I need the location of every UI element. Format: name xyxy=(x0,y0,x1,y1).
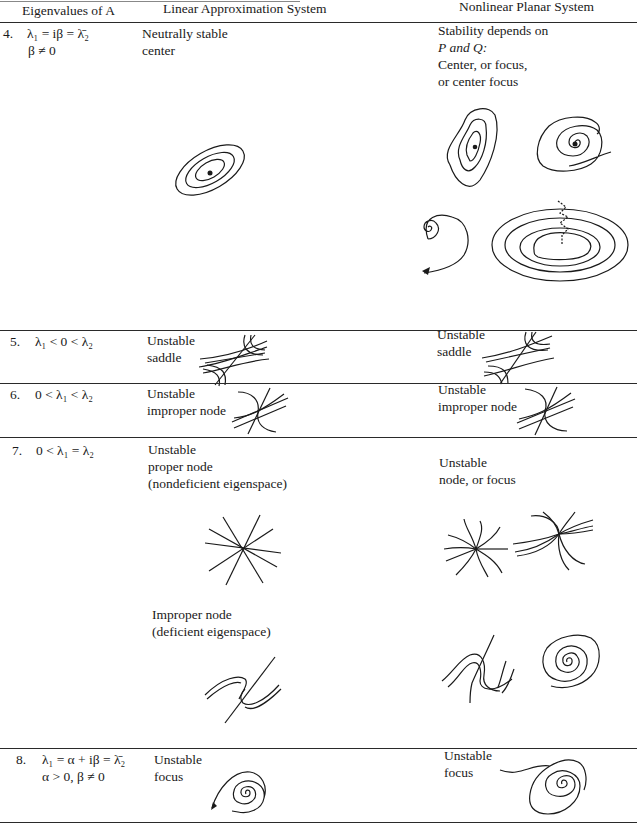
linear-type-2: improper node xyxy=(147,402,226,419)
linear-type: Unstable xyxy=(147,385,195,402)
linear-type: Unstable xyxy=(147,332,195,349)
focus-spiral-icon xyxy=(525,112,625,182)
nonlinear-type-2: node, or focus xyxy=(439,471,516,488)
bottom-rule xyxy=(0,822,637,823)
nonlinear-type-2: saddle xyxy=(437,343,472,360)
row-number: 7. xyxy=(12,442,22,459)
spiral-outward-icon xyxy=(420,205,475,275)
header-nonlinear: Nonlinear Planar System xyxy=(459,0,594,15)
improper-node-deficient-icon xyxy=(203,655,283,725)
linear-type-2: focus xyxy=(154,768,183,785)
linear-type-b: Improper node xyxy=(152,606,232,623)
linear-type-b-2: (deficient eigenspace) xyxy=(152,623,271,640)
eigen-condition: 0 < λ₁ = λ₂ xyxy=(36,442,94,459)
header-linear: Linear Approximation System xyxy=(163,0,326,17)
linear-type-3: (nondeficient eigenspace) xyxy=(148,475,287,492)
row-number: 5. xyxy=(10,333,20,350)
linear-type-2: proper node xyxy=(148,458,213,475)
eigen-condition: 0 < λ₁ < λ₂ xyxy=(35,386,93,403)
unstable-focus-spiral-icon xyxy=(500,752,590,820)
nonlinear-type: Unstable xyxy=(439,454,487,471)
saddle-icon xyxy=(478,330,558,385)
nonlinear-type-4: or center focus xyxy=(438,73,518,90)
nonlinear-type: Stability depends on xyxy=(438,22,548,39)
row-rule xyxy=(0,748,637,749)
unstable-focus-spiral-icon xyxy=(210,768,278,820)
row-number: 6. xyxy=(10,386,20,403)
curved-improper-node-icon xyxy=(513,508,595,578)
improper-node-icon xyxy=(515,385,579,437)
improper-node-icon xyxy=(230,386,290,436)
eigen-condition: λ₁ < 0 < λ₂ xyxy=(35,333,93,350)
eigen-condition-2: β ≠ 0 xyxy=(28,42,56,59)
linear-type: Neutrally stable xyxy=(142,25,228,42)
linear-type: Unstable xyxy=(148,441,196,458)
row-number: 4. xyxy=(3,25,13,42)
saddle-icon xyxy=(195,333,275,388)
eigen-condition: λ₁ = iβ = λ̄₂ xyxy=(27,25,89,42)
nonlinear-type: Unstable xyxy=(438,381,486,398)
s-curve-node-icon xyxy=(440,633,520,705)
curved-star-node-icon xyxy=(444,515,510,579)
linear-type-2: center xyxy=(142,42,175,59)
nonlinear-type-2: focus xyxy=(444,764,473,781)
eigen-condition-2: α > 0, β ≠ 0 xyxy=(42,768,105,785)
nonlinear-type: Unstable xyxy=(444,747,492,764)
eigen-condition: λ₁ = α + iβ = λ̄₂ xyxy=(42,751,125,768)
center-icon xyxy=(170,140,250,200)
nonlinear-type-3: Center, or focus, xyxy=(438,56,527,73)
linear-type: Unstable xyxy=(154,751,202,768)
nonlinear-type-2: improper node xyxy=(438,398,517,415)
header-eigenvalues: Eigenvalues of A xyxy=(22,2,115,19)
row-rule xyxy=(0,437,637,438)
spiral-focus-icon xyxy=(535,632,605,694)
proper-node-star-icon xyxy=(205,515,281,585)
linear-type-2: saddle xyxy=(147,349,182,366)
nonlinear-type-2: P and Q: xyxy=(438,39,487,56)
center-focus-icon xyxy=(488,195,628,285)
row-rule xyxy=(0,383,637,384)
center-distorted-icon xyxy=(440,105,502,190)
row-number: 8. xyxy=(16,751,26,768)
